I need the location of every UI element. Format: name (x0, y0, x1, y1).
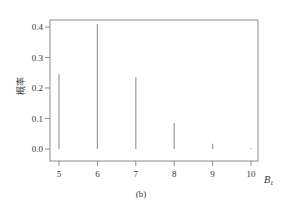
stem-chart: 0.00.10.20.30.4 5678910 概率 Bt (b) (0, 0, 281, 201)
plot-border (50, 20, 258, 161)
x-axis-title: Bt (263, 175, 274, 186)
y-axis-label: 概率 (15, 77, 26, 95)
plot-frame (50, 20, 258, 161)
x-tick-label: 10 (247, 169, 257, 179)
y-tick-label: 0.4 (32, 22, 44, 32)
y-tick-label: 0.0 (32, 144, 44, 154)
x-tick-label: 5 (57, 169, 62, 179)
figure-caption: (b) (136, 189, 147, 199)
y-axis-title: 概率 (15, 77, 26, 95)
x-tick-label: 7 (134, 169, 139, 179)
x-tick-label: 6 (95, 169, 100, 179)
x-tick-label: 8 (172, 169, 177, 179)
x-axis-label: Bt (263, 175, 274, 186)
x-tick-label: 9 (210, 169, 215, 179)
stem-bars (59, 24, 251, 149)
y-tick-label: 0.1 (32, 114, 43, 124)
y-tick-label: 0.3 (32, 53, 44, 63)
y-axis-ticks: 0.00.10.20.30.4 (32, 22, 50, 154)
y-tick-label: 0.2 (32, 83, 43, 93)
x-axis-ticks: 5678910 (57, 161, 256, 179)
